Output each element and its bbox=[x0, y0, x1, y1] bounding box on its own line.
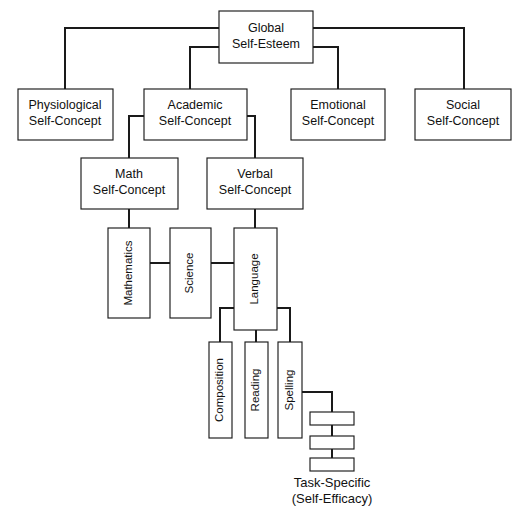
connector-language-to-spelling bbox=[277, 308, 290, 342]
node-label: Science bbox=[183, 253, 195, 294]
connector-academic-to-verbal bbox=[247, 116, 255, 158]
connector-language-to-composition bbox=[220, 308, 234, 342]
node-label-line2: Self-Esteem bbox=[232, 37, 300, 51]
connector-global-to-social bbox=[313, 28, 464, 89]
node-task-specific-3[interactable] bbox=[310, 458, 354, 471]
node-spelling[interactable]: Spelling bbox=[278, 342, 302, 438]
node-box bbox=[310, 412, 354, 425]
node-label-line2: Self-Concept bbox=[93, 183, 166, 197]
node-label-line1: Global bbox=[248, 21, 284, 35]
node-label-line2: Self-Concept bbox=[219, 183, 292, 197]
connector-global-to-emotional bbox=[313, 47, 338, 89]
node-label-line2: Self-Concept bbox=[427, 114, 500, 128]
node-verbal-self-concept[interactable]: Verbal Self-Concept bbox=[207, 158, 303, 209]
node-label: Language bbox=[248, 253, 260, 304]
node-science[interactable]: Science bbox=[170, 228, 211, 318]
node-label-line1: Verbal bbox=[237, 167, 272, 181]
node-label: Spelling bbox=[283, 370, 295, 411]
node-task-specific-2[interactable] bbox=[310, 436, 354, 449]
node-academic-self-concept[interactable]: Academic Self-Concept bbox=[144, 89, 247, 140]
node-mathematics[interactable]: Mathematics bbox=[108, 228, 150, 318]
connector-spelling-to-task-stack bbox=[302, 392, 332, 412]
node-global-self-esteem[interactable]: Global Self-Esteem bbox=[219, 11, 313, 63]
node-physiological-self-concept[interactable]: Physiological Self-Concept bbox=[18, 89, 113, 140]
node-label: Reading bbox=[249, 369, 261, 412]
node-box bbox=[310, 458, 354, 471]
node-emotional-self-concept[interactable]: Emotional Self-Concept bbox=[291, 89, 385, 140]
node-task-specific-1[interactable] bbox=[310, 412, 354, 425]
node-label-line1: Academic bbox=[168, 98, 223, 112]
connector-global-to-academic bbox=[190, 47, 219, 89]
diagram-canvas: Global Self-Esteem Physiological Self-Co… bbox=[0, 0, 527, 520]
node-math-self-concept[interactable]: Math Self-Concept bbox=[81, 158, 178, 209]
node-language[interactable]: Language bbox=[234, 228, 277, 330]
node-social-self-concept[interactable]: Social Self-Concept bbox=[415, 89, 511, 140]
node-label-line1: Math bbox=[115, 167, 143, 181]
connector-academic-to-math bbox=[129, 116, 144, 158]
caption-line2: (Self-Efficacy) bbox=[292, 491, 373, 506]
node-reading[interactable]: Reading bbox=[245, 342, 268, 438]
connector-global-to-physiological bbox=[65, 28, 219, 89]
node-label-line2: Self-Concept bbox=[159, 114, 232, 128]
node-label-line2: Self-Concept bbox=[302, 114, 375, 128]
node-composition[interactable]: Composition bbox=[209, 342, 232, 438]
node-label: Mathematics bbox=[122, 240, 134, 305]
node-label-line2: Self-Concept bbox=[29, 114, 102, 128]
node-label-line1: Social bbox=[446, 98, 480, 112]
node-label-line1: Physiological bbox=[29, 98, 102, 112]
node-box bbox=[310, 436, 354, 449]
caption-line1: Task-Specific bbox=[294, 475, 371, 490]
node-label-line1: Emotional bbox=[310, 98, 366, 112]
self-concept-hierarchy-diagram: Global Self-Esteem Physiological Self-Co… bbox=[0, 0, 527, 520]
task-specific-caption: Task-Specific (Self-Efficacy) bbox=[292, 475, 373, 506]
node-label: Composition bbox=[213, 358, 225, 422]
